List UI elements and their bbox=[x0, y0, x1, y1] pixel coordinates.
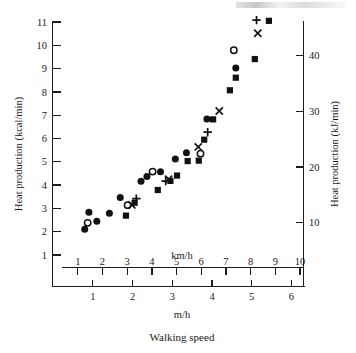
data-point-open-circle bbox=[84, 220, 90, 226]
y-tick-label-kcal-9: 9 bbox=[42, 63, 47, 74]
y-axis-left-title: Heat production (kcal/min) bbox=[13, 96, 25, 211]
data-point-filled-circle bbox=[172, 156, 179, 163]
data-point-filled-circle bbox=[143, 173, 150, 180]
data-point-filled-circle bbox=[85, 209, 92, 216]
y-axis-left-ticks bbox=[53, 22, 61, 255]
data-point-plus bbox=[203, 128, 211, 136]
data-point-open-circle bbox=[149, 168, 155, 174]
data-point-filled-square bbox=[266, 18, 272, 24]
x-tick-label-mph-2: 2 bbox=[130, 291, 135, 302]
data-point-filled-square bbox=[196, 158, 202, 164]
data-point-plus bbox=[252, 16, 260, 24]
data-point-open-circle bbox=[231, 47, 237, 53]
data-point-filled-square bbox=[227, 87, 233, 93]
x-tick-label-kmh-10: 10 bbox=[295, 256, 306, 267]
data-point-filled-square bbox=[252, 56, 258, 62]
data-point-filled-circle bbox=[106, 210, 113, 217]
y-tick-label-kcal-6: 6 bbox=[42, 133, 47, 144]
y-axis-right-ticks bbox=[296, 56, 304, 223]
y-tick-label-kj-20: 20 bbox=[309, 162, 320, 173]
y-axis-left-labels: 1234567891011 bbox=[37, 17, 48, 261]
x-tick-label-mph-3: 3 bbox=[170, 291, 175, 302]
x-tick-label-kmh-3: 3 bbox=[125, 256, 130, 267]
data-point-filled-circle bbox=[138, 178, 145, 185]
y-tick-label-kcal-11: 11 bbox=[37, 17, 47, 28]
x-axis-kmh-ticks bbox=[78, 268, 300, 275]
data-point-cross bbox=[195, 143, 202, 150]
data-point-filled-square bbox=[174, 172, 180, 178]
data-point-filled-circle bbox=[93, 218, 100, 225]
data-point-filled-square bbox=[201, 137, 207, 143]
y-tick-label-kcal-2: 2 bbox=[42, 226, 47, 237]
x-tick-label-kmh-6: 6 bbox=[199, 256, 204, 267]
data-point-cross bbox=[216, 107, 223, 114]
data-point-filled-square bbox=[155, 187, 161, 193]
y-tick-label-kcal-5: 5 bbox=[42, 156, 47, 167]
y-tick-label-kcal-8: 8 bbox=[42, 87, 47, 98]
x-tick-label-kmh-2: 2 bbox=[100, 256, 105, 267]
y-tick-label-kcal-7: 7 bbox=[42, 110, 47, 121]
scatter-plot: 1234567891011 10203040 12345678910 12345… bbox=[0, 0, 356, 353]
y-tick-label-kj-40: 40 bbox=[309, 50, 320, 61]
x-tick-label-kmh-7: 7 bbox=[223, 256, 228, 267]
data-point-filled-square bbox=[210, 116, 216, 122]
y-axis-right-title: Heat production (kJ/min) bbox=[329, 100, 341, 207]
figure-caption: Walking speed bbox=[150, 331, 215, 343]
data-point-filled-square bbox=[233, 75, 239, 81]
y-tick-label-kj-30: 30 bbox=[309, 106, 320, 117]
data-point-filled-square bbox=[123, 213, 129, 219]
x-axis-kmh-unit-label: km/h bbox=[171, 250, 193, 261]
x-axis-mph-labels: 123456 bbox=[90, 291, 294, 302]
x-tick-label-kmh-8: 8 bbox=[248, 256, 253, 267]
data-point-open-circle bbox=[197, 150, 203, 156]
data-point-group bbox=[81, 16, 272, 233]
y-axis-right-labels: 10203040 bbox=[309, 50, 320, 228]
figure-container: 1234567891011 10203040 12345678910 12345… bbox=[0, 0, 356, 353]
x-tick-label-mph-6: 6 bbox=[289, 291, 294, 302]
y-tick-label-kcal-3: 3 bbox=[42, 203, 47, 214]
data-point-filled-circle bbox=[183, 149, 190, 156]
data-point-filled-circle bbox=[157, 168, 164, 175]
y-tick-label-kcal-10: 10 bbox=[37, 40, 48, 51]
x-tick-label-kmh-9: 9 bbox=[273, 256, 278, 267]
x-axis-mph-ticks bbox=[93, 280, 292, 287]
x-axis-mph-unit-label: m/h bbox=[174, 309, 191, 320]
data-point-filled-circle bbox=[117, 194, 124, 201]
x-tick-label-mph-1: 1 bbox=[90, 291, 95, 302]
data-point-cross bbox=[254, 30, 261, 37]
data-point-filled-circle bbox=[232, 64, 239, 71]
y-tick-label-kcal-4: 4 bbox=[42, 180, 48, 191]
y-tick-label-kcal-1: 1 bbox=[42, 250, 47, 261]
x-tick-label-kmh-1: 1 bbox=[75, 256, 80, 267]
x-tick-label-mph-5: 5 bbox=[249, 291, 254, 302]
data-point-filled-circle bbox=[203, 115, 210, 122]
y-tick-label-kj-10: 10 bbox=[309, 217, 320, 228]
data-point-filled-square bbox=[185, 158, 191, 164]
x-tick-label-kmh-4: 4 bbox=[149, 256, 155, 267]
x-tick-label-mph-4: 4 bbox=[209, 291, 215, 302]
